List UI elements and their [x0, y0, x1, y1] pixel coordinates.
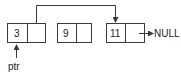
node-1-value: 3 [14, 28, 20, 39]
node-2: 9 [58, 24, 92, 43]
ptr-label: ptr [8, 61, 20, 72]
node-3-value: 11 [110, 28, 121, 39]
null-label: NULL [154, 28, 180, 39]
next-pointer-arrow-icon [37, 6, 116, 24]
node-3: 11 [107, 24, 145, 43]
node-1: 3 [8, 24, 46, 43]
node-2-value: 9 [63, 28, 69, 39]
linked-list-diagram: 3 9 11 NULL ptr [0, 0, 181, 75]
